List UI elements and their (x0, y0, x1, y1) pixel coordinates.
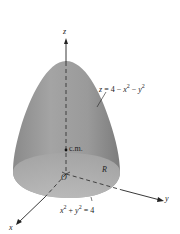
x-axis (19, 197, 45, 222)
center-of-mass-label: c.m. (69, 145, 83, 153)
boundary-equation-label: x2 + y2 = 4 (60, 204, 94, 215)
origin-label: O (61, 174, 67, 182)
region-label: R (102, 166, 107, 174)
z-axis-arrow-icon (64, 38, 68, 44)
y-axis-arrow-icon (157, 197, 164, 202)
y-axis (122, 190, 160, 200)
surface-eq-y-exp: 2 (142, 83, 145, 89)
y-axis-label: y (165, 195, 169, 203)
boundary-leader-line (91, 197, 92, 201)
center-of-mass-dot (65, 149, 68, 152)
surface-equation-label: z = 4 − x2 − y2 (99, 83, 145, 94)
boundary-eq-plus: + (67, 206, 76, 215)
surface-eq-minus: − (130, 85, 139, 94)
surface-eq-mid: = 4 − (102, 85, 123, 94)
z-axis-label: z (63, 28, 66, 36)
x-axis-label: x (9, 224, 13, 232)
boundary-eq-rhs: = 4 (82, 206, 95, 215)
paraboloid-diagram (0, 0, 180, 234)
